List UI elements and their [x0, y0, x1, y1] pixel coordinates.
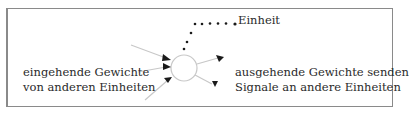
outgoing-label: ausgehende Gewichte senden Signale an an…	[235, 65, 409, 95]
incoming-label-line-2: von anderen Einheiten	[23, 80, 155, 95]
outgoing-weights	[195, 58, 218, 84]
outgoing-label-line-2: Signale an andere Einheiten	[235, 80, 409, 95]
outgoing-label-line-1: ausgehende Gewichte senden	[235, 65, 409, 80]
unit-label: Einheit	[238, 13, 280, 28]
unit-node	[171, 55, 197, 81]
unit-pointer-dots	[183, 22, 237, 50]
incoming-label: eingehende Gewichte von anderen Einheite…	[23, 65, 155, 95]
incoming-label-line-1: eingehende Gewichte	[23, 65, 155, 80]
